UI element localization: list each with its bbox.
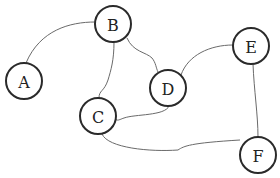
node-label: F	[252, 147, 263, 166]
edge-a-b	[26, 22, 95, 63]
node-label: C	[92, 108, 104, 127]
node-d: D	[150, 70, 186, 106]
node-label: B	[107, 16, 119, 35]
node-c: C	[80, 98, 116, 134]
graph-svg: ABCDEF	[0, 0, 280, 178]
node-label: A	[17, 73, 30, 92]
nodes: ABCDEF	[6, 6, 276, 173]
edge-d-c	[115, 106, 169, 120]
node-label: D	[162, 80, 175, 99]
node-e: E	[233, 28, 269, 64]
node-f: F	[240, 137, 276, 173]
edge-d-e	[181, 45, 233, 75]
node-a: A	[6, 63, 42, 99]
node-b: B	[95, 6, 131, 42]
edge-b-c	[99, 42, 114, 98]
edge-e-f	[253, 64, 258, 137]
node-label: E	[245, 38, 257, 57]
graph-diagram: ABCDEF	[0, 0, 280, 178]
edge-b-d	[127, 38, 158, 72]
edge-c-f	[102, 134, 240, 150]
edges	[26, 22, 258, 150]
